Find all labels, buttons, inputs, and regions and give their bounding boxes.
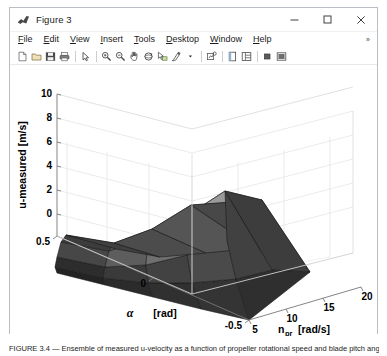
menu-item-insert[interactable]: Insert: [100, 35, 123, 44]
surface-mesh: [55, 191, 310, 320]
menu-item-label: iew: [76, 34, 90, 44]
y-axis-label-unit: [rad/s]: [298, 323, 330, 335]
z-tick-label: 4: [46, 160, 52, 171]
window-controls: [278, 8, 377, 31]
menu-item-edit[interactable]: Edit: [44, 35, 60, 44]
menu-item-label: dit: [50, 34, 60, 44]
figure-palette-icon[interactable]: [226, 50, 239, 63]
x-tick-label: 0: [140, 278, 146, 289]
zoom-in-icon[interactable]: [100, 50, 113, 63]
menu-item-window[interactable]: Window: [210, 35, 242, 44]
title-bar: Figure 3: [10, 8, 377, 32]
figure-canvas[interactable]: 10 8 6 4 2 0 u-measured [m/s] 0.5: [10, 65, 377, 336]
z-tick-label: 6: [46, 136, 52, 147]
y-tick-label: 15: [323, 302, 335, 313]
menu-item-label: nsert: [103, 34, 123, 44]
menu-overflow-icon[interactable]: »: [366, 36, 370, 43]
link-plot-icon[interactable]: [205, 50, 218, 63]
maximize-icon[interactable]: [311, 8, 344, 31]
pan-icon[interactable]: [128, 50, 141, 63]
z-axis: 10 8 6 4 2 0 u-measured [m/s]: [16, 88, 61, 219]
menu-item-label: elp: [260, 34, 272, 44]
x-tick-label: -0.5: [225, 320, 243, 331]
y-tick-label: 5: [252, 324, 258, 335]
zoom-out-icon[interactable]: [114, 50, 127, 63]
menu-item-label: indow: [218, 34, 242, 44]
colorbar-icon[interactable]: [261, 50, 274, 63]
new-figure-icon[interactable]: [16, 50, 29, 63]
z-tick-label: 0: [46, 208, 52, 219]
menu-item-label: ile: [24, 34, 33, 44]
rotate-3d-icon[interactable]: [142, 50, 155, 63]
menu-bar: File Edit View Insert Tools Desktop Wind…: [10, 32, 377, 48]
menu-item-tools[interactable]: Tools: [134, 35, 155, 44]
figure-toolbar: [10, 48, 377, 65]
legend-icon[interactable]: [275, 50, 288, 63]
z-tick-label: 8: [46, 112, 52, 123]
toolbar-separator: [201, 51, 202, 62]
brush-data-icon[interactable]: [170, 50, 183, 63]
toolbar-separator: [75, 51, 76, 62]
save-figure-icon[interactable]: [44, 50, 57, 63]
y-axis-label-subscript: pr: [285, 329, 293, 336]
figure-caption: FIGURE 3.4 — Ensemble of measured u-velo…: [9, 344, 379, 355]
pointer-icon[interactable]: [79, 50, 92, 63]
menu-item-desktop[interactable]: Desktop: [166, 35, 199, 44]
plot-browser-icon[interactable]: [240, 50, 253, 63]
matlab-figure-icon: [17, 14, 30, 26]
x-axis-label-unit: [rad]: [153, 307, 176, 319]
y-tick-label: 20: [361, 291, 373, 302]
x-axis-label-symbol: α: [127, 306, 134, 320]
y-tick-label: 10: [286, 313, 298, 324]
menu-item-label: ools: [138, 34, 155, 44]
surface-plot: 10 8 6 4 2 0 u-measured [m/s] 0.5: [10, 65, 377, 336]
minimize-icon[interactable]: [278, 8, 311, 31]
menu-item-help[interactable]: Help: [253, 35, 272, 44]
print-figure-icon[interactable]: [58, 50, 71, 63]
open-file-icon[interactable]: [30, 50, 43, 63]
toolbar-separator: [257, 51, 258, 62]
y-axis-label-base: n: [278, 323, 284, 335]
menu-item-file[interactable]: File: [18, 35, 33, 44]
data-cursor-icon[interactable]: [156, 50, 169, 63]
toolbar-separator: [96, 51, 97, 62]
screenshot-root: Figure 3: [0, 0, 387, 356]
x-tick-label: 0.5: [36, 236, 50, 247]
menu-item-view[interactable]: View: [70, 35, 89, 44]
figure-window: Figure 3: [9, 7, 378, 334]
window-title: Figure 3: [36, 15, 72, 25]
z-tick-label: 10: [41, 88, 53, 99]
z-axis-label: u-measured [m/s]: [16, 121, 28, 209]
close-icon[interactable]: [344, 8, 377, 31]
brush-dropdown-arrow-icon[interactable]: [184, 50, 197, 63]
menu-item-label: esktop: [172, 34, 199, 44]
toolbar-separator: [222, 51, 223, 62]
z-tick-label: 2: [46, 184, 52, 195]
